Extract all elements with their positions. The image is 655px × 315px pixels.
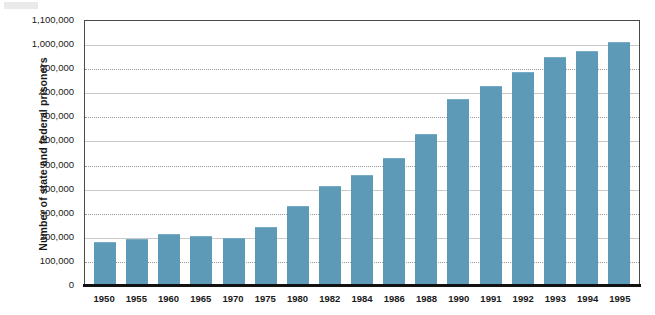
bar-1986[interactable] [383, 158, 405, 285]
bar-slot [89, 21, 121, 285]
bar-slot [153, 21, 185, 285]
x-axis-tick-label: 1992 [507, 289, 539, 311]
bar-1991[interactable] [480, 86, 502, 285]
bar-1993[interactable] [544, 57, 566, 285]
plot-area [84, 20, 640, 285]
y-axis-tick-label: 800,000 [40, 87, 74, 97]
y-axis-tick-label: 0 [69, 280, 74, 290]
x-axis-tick-label: 1965 [185, 289, 217, 311]
bar-1990[interactable] [447, 99, 469, 285]
x-axis-tick-label: 1991 [475, 289, 507, 311]
bar-1965[interactable] [190, 236, 212, 285]
bar-1950[interactable] [94, 242, 116, 285]
y-axis-tick-label: 300,000 [40, 208, 74, 218]
bar-1984[interactable] [351, 175, 373, 285]
x-axis-tick-label: 1970 [217, 289, 249, 311]
bar-1995[interactable] [608, 42, 630, 285]
x-axis-tick-label: 1993 [539, 289, 571, 311]
bar-slot [185, 21, 217, 285]
x-axis-tick-label: 1984 [346, 289, 378, 311]
bar-1980[interactable] [287, 206, 309, 286]
bar-slot [475, 21, 507, 285]
y-axis-tick-label: 500,000 [40, 160, 74, 170]
x-axis-tick-label: 1955 [120, 289, 152, 311]
bar-1994[interactable] [576, 51, 598, 285]
bar-chart-figure: Number of state and federal prisoners 01… [0, 0, 655, 315]
x-axis-tick-label: 1986 [378, 289, 410, 311]
x-axis-tick-label: 1995 [604, 289, 636, 311]
y-axis-tick-label: 1,000,000 [32, 39, 74, 49]
bar-slot [507, 21, 539, 285]
bar-slot [121, 21, 153, 285]
bar-1960[interactable] [158, 234, 180, 285]
x-axis-tick-label: 1960 [152, 289, 184, 311]
bar-slot [314, 21, 346, 285]
bar-1982[interactable] [319, 186, 341, 285]
y-axis-tick-label: 600,000 [40, 135, 74, 145]
x-axis-tick-label: 1988 [410, 289, 442, 311]
x-axis-tick-label: 1990 [443, 289, 475, 311]
bar-slot [250, 21, 282, 285]
bar-slot [442, 21, 474, 285]
bar-1992[interactable] [512, 72, 534, 285]
y-axis-tick-labels: 0100,000200,000300,000400,000500,000600,… [0, 0, 84, 315]
y-axis-tick-label: 100,000 [40, 256, 74, 266]
x-axis-tick-labels: 1950195519601965197019751980198219841986… [84, 289, 640, 311]
bar-slot [539, 21, 571, 285]
bar-slot [218, 21, 250, 285]
y-axis-tick-label: 700,000 [40, 111, 74, 121]
bar-slot [282, 21, 314, 285]
y-axis-tick-label: 1,100,000 [32, 15, 74, 25]
bar-slot [378, 21, 410, 285]
x-axis-tick-label: 1994 [572, 289, 604, 311]
y-axis-tick-label: 900,000 [40, 63, 74, 73]
bar-slot [410, 21, 442, 285]
bar-slot [571, 21, 603, 285]
y-axis-tick-label: 400,000 [40, 184, 74, 194]
x-axis-tick-label: 1982 [314, 289, 346, 311]
x-axis-tick-label: 1950 [88, 289, 120, 311]
x-axis-tick-label: 1975 [249, 289, 281, 311]
y-axis-tick-label: 200,000 [40, 232, 74, 242]
bar-1955[interactable] [126, 239, 148, 285]
bar-series [85, 21, 639, 285]
x-axis-baseline [83, 284, 641, 287]
bar-1988[interactable] [415, 134, 437, 285]
bar-1975[interactable] [255, 227, 277, 285]
bar-slot [603, 21, 635, 285]
bar-1970[interactable] [223, 238, 245, 285]
x-axis-tick-label: 1980 [281, 289, 313, 311]
bar-slot [346, 21, 378, 285]
